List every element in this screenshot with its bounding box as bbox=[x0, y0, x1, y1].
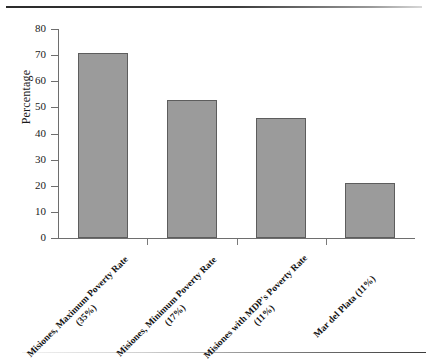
y-axis-tick bbox=[51, 212, 58, 213]
bar bbox=[345, 183, 395, 238]
bar-chart-figure: Percentage 01020304050607080 Misiones, M… bbox=[0, 0, 430, 363]
y-axis-tick-label: 70 bbox=[16, 49, 46, 60]
y-axis-tick-label: 40 bbox=[16, 128, 46, 139]
y-axis-tick-label: 0 bbox=[16, 232, 46, 243]
y-axis-tick-label: 10 bbox=[16, 206, 46, 217]
y-axis-tick bbox=[51, 81, 58, 82]
y-axis-tick bbox=[51, 55, 58, 56]
y-axis-tick bbox=[51, 107, 58, 108]
y-axis-tick bbox=[51, 186, 58, 187]
y-axis-tick bbox=[51, 29, 58, 30]
page-rule-top bbox=[6, 6, 422, 8]
bar bbox=[167, 100, 217, 238]
plot-area bbox=[58, 29, 415, 238]
x-axis-separator bbox=[237, 239, 238, 245]
x-axis-separator bbox=[147, 239, 148, 245]
bar bbox=[78, 53, 128, 238]
y-axis-tick-label: 50 bbox=[16, 101, 46, 112]
bar bbox=[256, 118, 306, 238]
x-axis-separator bbox=[326, 239, 327, 245]
y-axis-tick-label: 20 bbox=[16, 180, 46, 191]
y-axis-tick-label: 80 bbox=[16, 23, 46, 34]
y-axis-tick-label: 30 bbox=[16, 154, 46, 165]
y-axis-tick bbox=[51, 134, 58, 135]
y-axis-tick-label: 60 bbox=[16, 75, 46, 86]
y-axis-tick bbox=[51, 160, 58, 161]
y-axis-tick bbox=[51, 238, 58, 239]
